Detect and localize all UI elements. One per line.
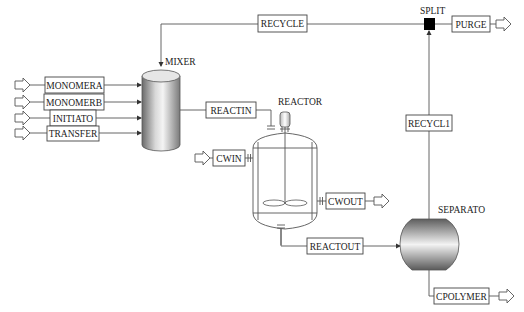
stream-label-transfer: TRANSFER	[49, 129, 98, 139]
stream-cpolymer[interactable]: CPOLYMER	[429, 270, 514, 304]
mixer-label: MIXER	[165, 57, 196, 67]
stream-transfer[interactable]: TRANSFER	[15, 126, 142, 141]
process-flow-diagram: RECYCLE MIXER MONOMERA MONOMERB INITIATO	[0, 0, 524, 312]
stream-recycl1[interactable]: RECYCL1	[406, 30, 452, 219]
stream-label-recycl1: RECYCL1	[408, 119, 450, 129]
stream-label-cwout: CWOUT	[328, 197, 363, 207]
stream-recycle[interactable]: RECYCLE	[159, 15, 425, 67]
feed-arrow-icon	[15, 126, 30, 140]
separator-label: SEPARATO	[438, 205, 485, 215]
product-arrow-icon	[374, 194, 389, 208]
stream-label-monomerb: MONOMERB	[46, 98, 102, 108]
feed-arrow-icon	[15, 111, 30, 125]
agitator-motor-icon	[280, 112, 290, 127]
feed-arrow-icon	[15, 95, 30, 109]
reactor-block[interactable]: REACTOR	[253, 97, 323, 229]
stream-purge[interactable]: PURGE	[435, 16, 511, 32]
stream-monomerb[interactable]: MONOMERB	[15, 94, 142, 110]
stream-label-reactin: REACTIN	[210, 106, 251, 116]
stream-reactout[interactable]: REACTOUT	[277, 225, 401, 254]
stream-initiato[interactable]: INITIATO	[15, 110, 142, 126]
stream-monomera[interactable]: MONOMERA	[15, 77, 142, 93]
stream-label-cpolymer: CPOLYMER	[436, 292, 487, 302]
stream-label-cwin: CWIN	[216, 154, 241, 164]
stream-label-initiato: INITIATO	[53, 114, 94, 124]
stream-label-reactout: REACTOUT	[310, 242, 361, 252]
mixer-block[interactable]: MIXER	[142, 57, 196, 151]
separator-block[interactable]: SEPARATO	[400, 205, 485, 270]
split-block[interactable]: SPLIT	[420, 6, 446, 30]
split-label: SPLIT	[420, 6, 446, 16]
stream-label-purge: PURGE	[455, 20, 486, 30]
stream-cwout[interactable]: CWOUT	[317, 193, 389, 209]
feed-arrow-icon	[15, 78, 30, 92]
stream-label-recycle: RECYCLE	[261, 19, 304, 29]
reactor-label: REACTOR	[278, 97, 323, 107]
impeller-icon	[263, 200, 285, 206]
stream-label-monomera: MONOMERA	[46, 81, 103, 91]
feed-arrow-icon	[195, 151, 210, 165]
product-arrow-icon	[499, 289, 514, 303]
stream-reactin[interactable]: REACTIN	[180, 102, 275, 129]
product-arrow-icon	[496, 17, 511, 31]
stream-cwin[interactable]: CWIN	[195, 150, 253, 166]
